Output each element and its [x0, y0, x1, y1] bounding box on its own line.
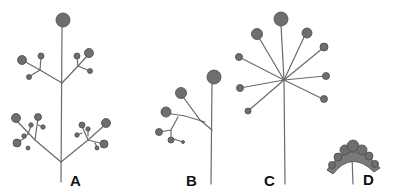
inflorescence-diagram	[0, 0, 393, 195]
panel-label-a: A	[70, 172, 81, 189]
panel-label-c: C	[264, 172, 275, 189]
panel-b-drawing	[156, 70, 222, 184]
panel-a-drawing	[12, 13, 111, 182]
panel-c-drawing	[236, 12, 330, 184]
panel-label-d: D	[363, 171, 374, 188]
panel-label-b: B	[186, 172, 197, 189]
